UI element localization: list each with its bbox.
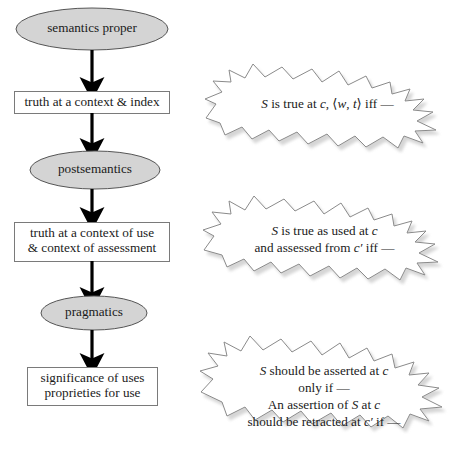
node-truth-use-assessment — [15, 223, 170, 262]
flowchart-diagram: semantics proper truth at a context & in… — [0, 0, 462, 469]
node-postsemantics — [30, 151, 160, 189]
node-pragmatics — [41, 296, 147, 330]
node-significance-proprieties — [28, 368, 158, 406]
node-semantics-proper — [16, 8, 168, 50]
flow-shapes-layer — [0, 0, 462, 469]
node-truth-context-index — [15, 92, 170, 114]
